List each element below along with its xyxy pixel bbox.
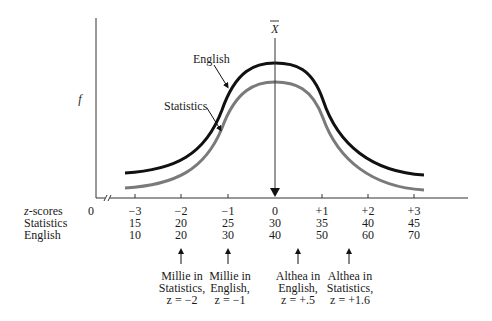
zero-label: 0: [88, 204, 94, 218]
english-curve-label: English: [193, 52, 230, 66]
statistics-curve-label: Statistics: [164, 99, 208, 113]
svg-text:20: 20: [175, 228, 187, 242]
svg-text:z = −1: z = −1: [215, 293, 246, 307]
annotation-millie-statistics: Millie in Statistics, z = −2: [159, 269, 205, 307]
mean-label: X: [270, 22, 279, 36]
svg-text:z = +.5: z = +.5: [281, 293, 315, 307]
row-label-english: English: [24, 228, 61, 242]
annotation-althea-english: Althea in English, z = +.5: [276, 269, 320, 307]
mean-arrowhead-icon: [270, 188, 280, 197]
normal-curves-figure: X f English Statistics z-scores Statisti…: [0, 0, 492, 321]
svg-text:z = +1.6: z = +1.6: [330, 293, 370, 307]
svg-text:z = −2: z = −2: [167, 293, 198, 307]
annotation-arrows: [181, 251, 349, 264]
annotation-althea-statistics: Althea in Statistics, z = +1.6: [327, 269, 373, 307]
english-leader-arrow: [214, 65, 227, 86]
annotation-millie-english: Millie in English, z = −1: [209, 269, 251, 307]
svg-text:40: 40: [269, 228, 281, 242]
svg-text:30: 30: [222, 228, 234, 242]
svg-text:60: 60: [362, 228, 374, 242]
svg-text:50: 50: [316, 228, 328, 242]
svg-text:10: 10: [129, 228, 141, 242]
english-row: 10 20 30 40 50 60 70: [129, 228, 420, 242]
svg-text:70: 70: [408, 228, 420, 242]
y-axis-label: f: [78, 92, 83, 106]
